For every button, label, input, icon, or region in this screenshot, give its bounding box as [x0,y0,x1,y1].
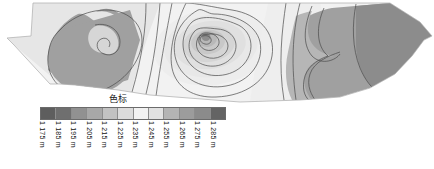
legend-title: 色标 [109,94,230,105]
legend-label-slot: 1 175 m [40,121,56,163]
legend-label: 1 185 m [55,121,62,148]
legend-label: 1 205 m [86,121,93,148]
legend-label-slot: 1 195 m [71,121,87,163]
legend-swatch [149,108,164,119]
legend-label-slot: 1 285 m [211,121,227,163]
legend-label-slot: 1 235 m [133,121,149,163]
legend-label-slot: 1 245 m [149,121,165,163]
legend-label: 1 255 m [163,121,170,148]
legend-label-slot: 1 215 m [102,121,118,163]
legend-swatch [180,108,195,119]
legend-label: 1 195 m [70,121,77,148]
legend-label-slot: 1 205 m [87,121,103,163]
legend-label: 1 175 m [39,121,46,148]
legend-swatch [72,108,87,119]
contour-map-figure: 色标 1 175 m1 185 m1 195 m1 205 m1 215 m1 … [0,0,434,169]
legend-label: 1 225 m [117,121,124,148]
legend-label-slot: 1 225 m [118,121,134,163]
legend-swatch [41,108,56,119]
legend-label-slot: 1 185 m [56,121,72,163]
legend-label-slot: 1 255 m [164,121,180,163]
legend-swatch [118,108,133,119]
legend-label: 1 215 m [101,121,108,148]
legend-swatch [195,108,210,119]
legend: 色标 1 175 m1 185 m1 195 m1 205 m1 215 m1 … [40,94,230,163]
legend-colorbar [40,107,226,120]
legend-label-slot: 1 265 m [180,121,196,163]
legend-label-slot: 1 275 m [195,121,211,163]
legend-label: 1 285 m [210,121,217,148]
legend-swatch [164,108,179,119]
legend-labels: 1 175 m1 185 m1 195 m1 205 m1 215 m1 225… [40,121,226,163]
legend-swatch [103,108,118,119]
legend-swatch [134,108,149,119]
legend-label: 1 235 m [132,121,139,148]
legend-swatch [211,108,225,119]
legend-label: 1 245 m [148,121,155,148]
legend-swatch [56,108,71,119]
legend-label: 1 275 m [194,121,201,148]
legend-swatch [87,108,102,119]
legend-label: 1 265 m [179,121,186,148]
